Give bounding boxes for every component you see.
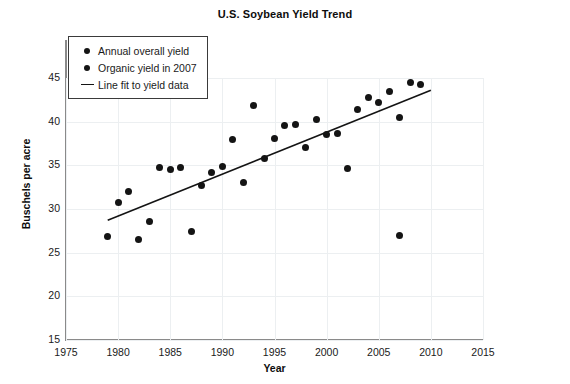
legend-entry: Line fit to yield data	[76, 76, 197, 93]
x-axis-tick-label: 2015	[461, 346, 505, 358]
y-axis-tick-label: 15	[36, 333, 60, 345]
x-axis-tick-label: 1990	[200, 346, 244, 358]
data-point	[146, 218, 153, 225]
x-axis-tick-label: 1985	[148, 346, 192, 358]
data-point	[198, 182, 205, 189]
y-axis-tick-label: 30	[36, 202, 60, 214]
data-point	[386, 88, 393, 95]
x-axis-tick-label: 2005	[357, 346, 401, 358]
x-axis-title: Year	[66, 362, 483, 374]
y-axis-tick-label: 40	[36, 115, 60, 127]
y-axis-tick-label: 20	[36, 289, 60, 301]
data-point	[271, 135, 278, 142]
y-axis-tick-label: 25	[36, 246, 60, 258]
data-point	[334, 130, 341, 137]
data-point	[115, 199, 122, 206]
data-point	[167, 166, 174, 173]
legend-dot-icon	[76, 65, 98, 71]
x-axis-tick-label: 1980	[96, 346, 140, 358]
legend-entry: Organic yield in 2007	[76, 59, 197, 76]
data-point	[219, 163, 226, 170]
x-axis-tick-label: 2000	[305, 346, 349, 358]
legend-line-icon	[76, 84, 98, 86]
x-axis-tick-label: 1975	[44, 346, 88, 358]
grid-line-vertical	[483, 78, 484, 340]
x-axis-tick-label: 1995	[253, 346, 297, 358]
x-axis-tick-label: 2010	[409, 346, 453, 358]
data-point	[396, 232, 403, 239]
y-axis-tick-label: 45	[36, 71, 60, 83]
data-point	[261, 155, 268, 162]
legend-entry: Annual overall yield	[76, 42, 197, 59]
chart-figure: U.S. Soybean Yield Trend Buschels per ac…	[0, 0, 570, 384]
y-axis-tick-label: 35	[36, 158, 60, 170]
chart-title: U.S. Soybean Yield Trend	[0, 8, 570, 20]
y-axis-tick-labels: 15202530354045	[32, 0, 60, 384]
data-point	[313, 116, 320, 123]
y-axis-title: Buschels per acre	[20, 114, 32, 254]
legend-label: Annual overall yield	[98, 45, 189, 57]
trend-line	[66, 78, 483, 340]
data-point	[240, 179, 247, 186]
chart-legend: Annual overall yieldOrganic yield in 200…	[68, 36, 208, 99]
data-point	[250, 102, 257, 109]
grid-line-horizontal	[66, 340, 483, 341]
data-point	[407, 79, 414, 86]
data-point	[229, 136, 236, 143]
legend-label: Line fit to yield data	[98, 79, 188, 91]
data-point	[188, 228, 195, 235]
data-point	[292, 121, 299, 128]
data-point	[396, 114, 403, 121]
plot-area	[66, 78, 483, 340]
legend-dot-icon	[76, 48, 98, 54]
legend-label: Organic yield in 2007	[98, 62, 197, 74]
data-point	[365, 94, 372, 101]
